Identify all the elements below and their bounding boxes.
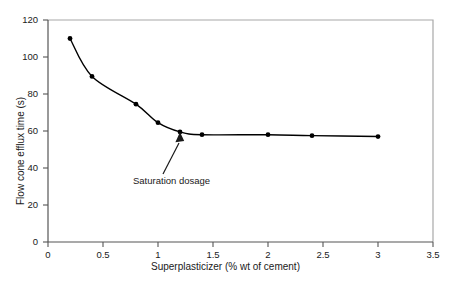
data-point [90,74,95,79]
data-point [156,120,161,125]
chart-figure: 0 20 40 60 80 100 120 0 0.5 1 1.5 2 2.5 … [0,0,451,283]
x-tick-label-0: 0 [28,250,68,260]
data-point [68,36,73,41]
x-tick-label-3.5: 3.5 [413,250,451,260]
y-tick-label-0: 0 [10,237,38,247]
x-axis-title: Superplasticizer (% wt of cement) [0,262,451,272]
data-point [376,134,381,139]
plot-frame-top-right [48,20,433,242]
data-point [134,102,139,107]
x-tick-label-1.5: 1.5 [193,250,233,260]
saturation-dosage-annotation: Saturation dosage [133,176,210,186]
x-tick-label-1: 1 [138,250,178,260]
x-tick-label-3: 3 [358,250,398,260]
data-series-line [70,39,378,137]
x-tick-label-2.5: 2.5 [303,250,343,260]
data-point [310,133,315,138]
annotation-arrow [163,132,184,174]
x-tick-label-0.5: 0.5 [83,250,123,260]
data-point [266,132,271,137]
plot-canvas [0,0,451,283]
x-axis-ticks [48,242,433,247]
y-tick-label-100: 100 [10,52,38,62]
y-tick-label-120: 120 [10,15,38,25]
y-axis-title: Flow cone efflux time (s) [16,97,26,205]
data-series-markers [68,36,381,139]
y-axis-ticks [43,20,48,242]
data-point [200,132,205,137]
x-tick-label-2: 2 [248,250,288,260]
